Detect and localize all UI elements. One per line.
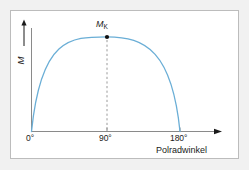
arrow-up-icon [21, 20, 26, 26]
x-tick-label-90: 90° [99, 134, 112, 143]
torque-curve [32, 37, 181, 132]
y-axis-label: M [15, 48, 26, 74]
x-tick-label-180: 180° [170, 134, 187, 143]
y-axis-label-wrap: M [13, 52, 27, 78]
chart-plot-area [0, 0, 249, 170]
peak-label-base: M [96, 19, 104, 29]
x-axis-title: Polradwinkel [156, 146, 207, 155]
dot-marker-icon [105, 35, 109, 39]
figure-container: M MK 0° 90° 180° Polradwinkel [0, 0, 249, 170]
peak-annotation-label: MK [96, 20, 108, 29]
x-tick-label-0: 0° [26, 134, 34, 143]
peak-label-subscript: K [104, 23, 108, 30]
arrow-right-icon [214, 129, 222, 135]
